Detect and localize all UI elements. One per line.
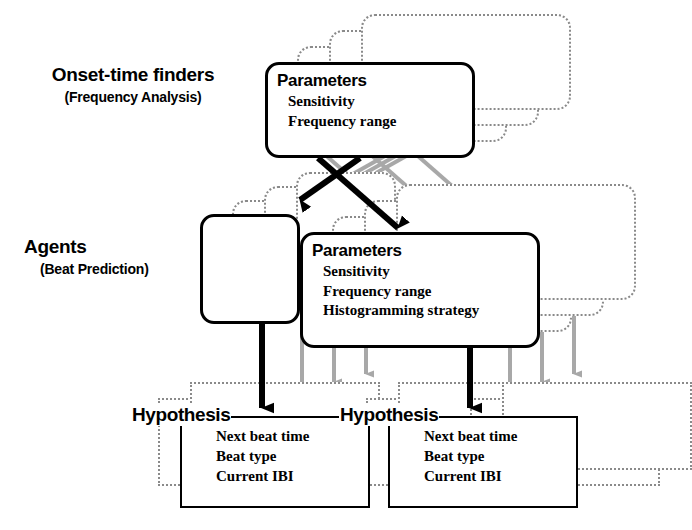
hypothesis-box-2[interactable]: Next beat time Beat type Current IBI	[388, 416, 578, 508]
arrow-onset-to-agent-left	[300, 158, 360, 200]
onset-parameter-item: Sensitivity	[288, 92, 472, 112]
agents-row-label-main: Agents	[24, 236, 199, 258]
agent-parameter-item: Sensitivity	[323, 262, 537, 282]
hypothesis-1-item: Beat type	[216, 446, 368, 466]
onset-parameters-card[interactable]: Parameters Sensitivity Frequency range	[265, 62, 475, 158]
hypothesis-2-item: Next beat time	[424, 426, 576, 446]
agents-row-label-sub: (Beat Prediction)	[40, 261, 199, 277]
onset-parameter-item: Frequency range	[288, 112, 472, 132]
agent-parameter-item: Histogramming strategy	[323, 301, 537, 321]
hypothesis-2-title: Hypothesis	[339, 404, 439, 426]
hypothesis-2-item: Beat type	[424, 446, 576, 466]
onset-row-label: Onset-time finders (Frequency Analysis)	[18, 64, 248, 105]
arrow-onset-to-agent-right	[318, 158, 398, 228]
hypothesis-2-item: Current IBI	[424, 466, 576, 486]
agent-parameters-title: Parameters	[312, 242, 537, 260]
agent-parameter-item: Frequency range	[323, 282, 537, 302]
hypothesis-1-item: Next beat time	[216, 426, 368, 446]
onset-row-label-sub: (Frequency Analysis)	[18, 89, 248, 105]
onset-row-label-main: Onset-time finders	[18, 64, 248, 86]
hypothesis-1-title: Hypothesis	[131, 404, 231, 426]
agents-row-label: Agents (Beat Prediction)	[14, 236, 199, 277]
agent-parameters-card[interactable]: Parameters Sensitivity Frequency range H…	[300, 232, 540, 348]
hypothesis-1-item: Current IBI	[216, 466, 368, 486]
onset-parameters-title: Parameters	[277, 72, 472, 90]
hypothesis-box-1[interactable]: Next beat time Beat type Current IBI	[180, 416, 370, 508]
